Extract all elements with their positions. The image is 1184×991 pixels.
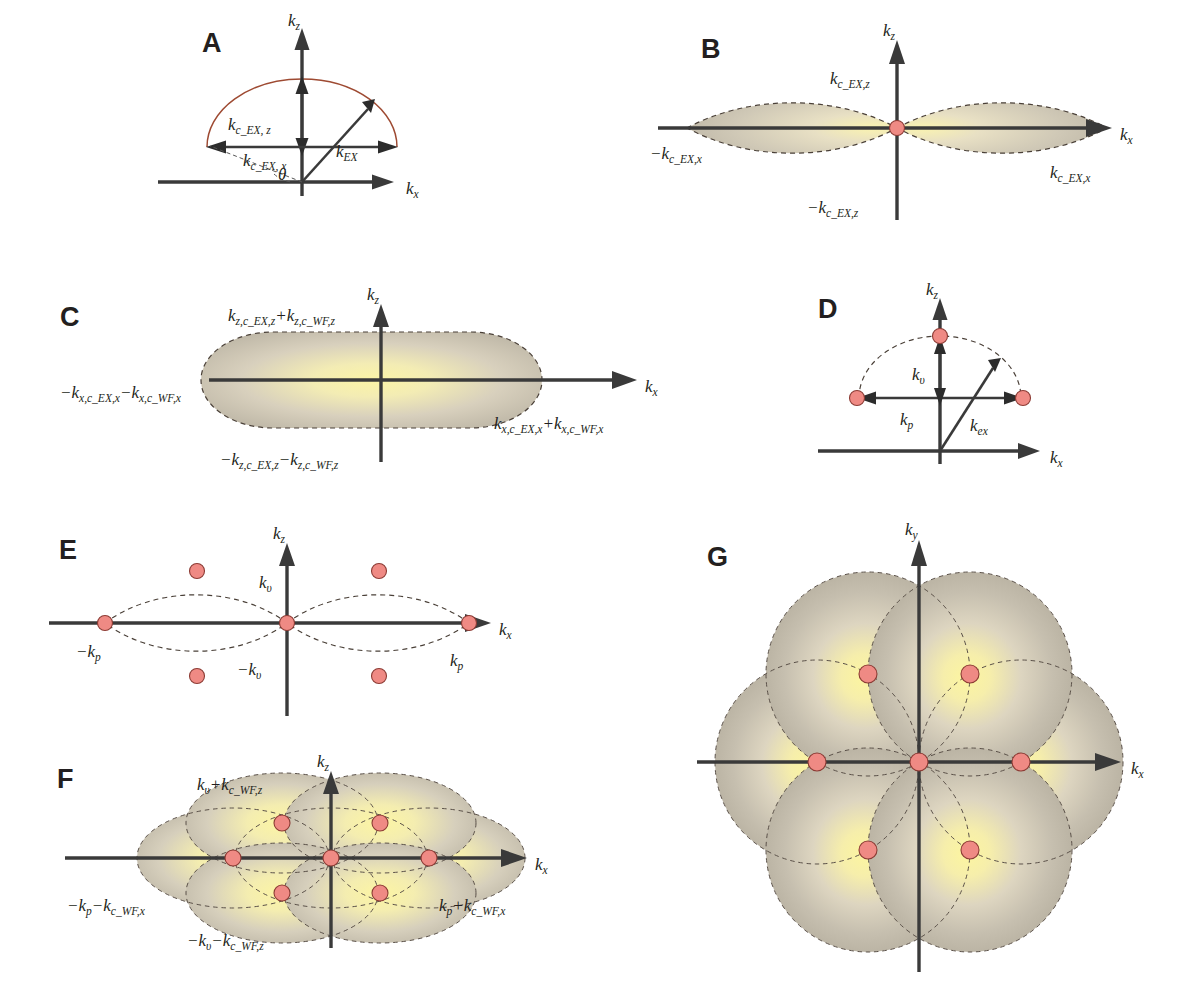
panel-g-dot-origin [910, 753, 928, 771]
panel-b-label-kcexx: kc_EX,x [1050, 163, 1091, 185]
panel-c-label-bottom: −kz,c_EX,z−kz,c_WF,z [220, 450, 339, 472]
panel-a-x-axis [158, 175, 394, 190]
panel-a-letter: A [202, 28, 222, 59]
panel-c-label-left: −kx,c_EX,x−kx,c_WF,x [60, 383, 182, 405]
panel-f-figure: kυ+kc_WF,z −kυ−kc_WF,z −kp−kc_WF,x kp+kc… [35, 748, 595, 978]
panel-c: C kz,c_EX,z+kz,c_WF,z −kz,c_EX,z [60, 285, 680, 490]
panel-f-dot-upper-left [274, 815, 290, 831]
panel-g-axis-label-y: ky [905, 520, 919, 542]
panel-e-dot-lower-right [372, 669, 387, 684]
panel-d-letter: D [818, 294, 838, 325]
panel-f-axis-label-x: kx [535, 855, 549, 876]
panel-g: G [625, 500, 1180, 990]
panel-e-letter: E [59, 535, 77, 566]
panel-c-figure: kz,c_EX,z+kz,c_WF,z −kz,c_EX,z−kz,c_WF,z… [60, 285, 680, 490]
panel-g-figure: kx ky [625, 500, 1180, 990]
panel-f-dot-right [421, 850, 437, 866]
panel-a: A [140, 14, 470, 224]
panel-g-dot-lower-left [859, 841, 877, 859]
panel-e-dot-origin [280, 616, 295, 631]
panel-f-dot-left [225, 850, 241, 866]
panel-f: F [35, 748, 595, 978]
panel-f-dot-lower-left [274, 885, 290, 901]
panel-d-dot-right [1016, 391, 1031, 406]
panel-b-figure: kc_EX,z −kc_EX,z −kc_EX,x kc_EX,x kx kz [650, 14, 1150, 239]
panel-g-dot-upper-right [961, 665, 979, 683]
panel-b-label-kcexz: kc_EX,z [830, 69, 870, 91]
panel-g-axis-label-x: kx [1131, 759, 1145, 780]
panel-f-letter: F [57, 764, 74, 795]
panel-g-dot-left [808, 753, 826, 771]
panel-d-x-axis [818, 443, 1040, 459]
panel-d-axis-label-z: kz [926, 280, 939, 301]
panel-d-label-kv: kυ [912, 365, 925, 386]
panel-g-dot-upper-left [859, 665, 877, 683]
panel-f-axis-label-z: kz [317, 752, 330, 773]
panel-a-kz-extent-arrow [296, 76, 309, 156]
panel-a-axis-label-x: kx [406, 179, 420, 200]
panel-a-axis-label-z: kz [288, 11, 301, 32]
panel-d-label-kex: kex [970, 416, 989, 437]
panel-a-label-theta: θ [278, 165, 286, 184]
panel-e-label-negkv: −kυ [237, 660, 261, 681]
panel-e-dot-upper-left [190, 564, 205, 579]
panel-a-figure: kc_EX, z kc_EX, x kEX θ kx kz [140, 14, 470, 224]
panel-g-dot-lower-right [961, 841, 979, 859]
panel-e: E kυ −kυ −kp kp [35, 518, 555, 733]
panel-d-dot-top [933, 329, 948, 344]
panel-d: D [800, 288, 1080, 483]
panel-c-axis-label-z: kz [367, 285, 380, 306]
panel-b: B [650, 14, 1150, 239]
panel-e-dot-right [462, 616, 477, 631]
panel-b-origin-dot [890, 121, 905, 136]
panel-b-axis-label-x: kx [1120, 125, 1134, 146]
panel-a-label-kcexz: kc_EX, z [228, 115, 271, 137]
panel-f-label-left: −kp−kc_WF,x [67, 896, 146, 918]
panel-f-dot-lower-right [372, 885, 388, 901]
panel-a-kex-vector [302, 99, 375, 182]
panel-c-axis-label-x: kx [645, 377, 659, 398]
panel-e-figure: kυ −kυ −kp kp kx kz [35, 518, 555, 733]
panel-d-kex-vector [940, 358, 1001, 451]
panel-e-label-kv: kυ [259, 573, 272, 594]
panel-f-dot-origin [323, 850, 339, 866]
panel-e-dot-upper-right [372, 564, 387, 579]
panel-d-dot-left [850, 391, 865, 406]
panel-b-letter: B [701, 34, 721, 65]
panel-c-letter: C [60, 302, 80, 333]
panel-g-letter: G [707, 542, 728, 573]
panel-e-dot-left [98, 616, 113, 631]
panel-e-axis-label-z: kz [273, 524, 286, 545]
panel-e-axis-label-x: kx [499, 620, 513, 641]
panel-b-axis-label-z: kz [883, 21, 896, 42]
panel-e-label-negkp: −kp [76, 642, 101, 664]
panel-d-label-kp: kp [900, 410, 914, 432]
panel-b-label-negkcexz: −kc_EX,z [807, 198, 859, 220]
panel-e-label-kp: kp [450, 651, 464, 673]
panel-f-dot-upper-right [372, 815, 388, 831]
panel-c-label-top: kz,c_EX,z+kz,c_WF,z [228, 306, 335, 328]
panel-d-kv-arrow [934, 336, 946, 406]
panel-a-label-kex: kEX [336, 142, 359, 163]
panel-d-axis-label-x: kx [1050, 448, 1064, 469]
panel-d-figure: kυ kp kex kx kz [800, 288, 1080, 483]
panel-b-label-negkcexx: −kc_EX,x [650, 144, 703, 166]
panel-g-dot-right [1012, 753, 1030, 771]
panel-e-dot-lower-left [190, 669, 205, 684]
